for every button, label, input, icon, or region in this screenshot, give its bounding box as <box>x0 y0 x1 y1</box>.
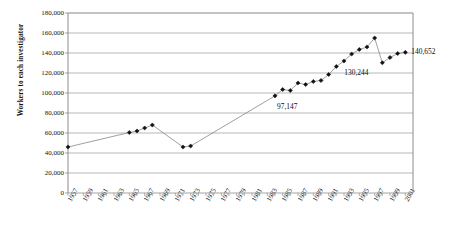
data-point-marker <box>189 144 193 148</box>
data-point-label: 140,652 <box>411 47 435 56</box>
plot-area <box>0 0 464 233</box>
data-point-marker <box>66 145 70 149</box>
data-point-label: 97,147 <box>277 102 297 111</box>
data-point-marker <box>143 126 147 130</box>
data-point-marker <box>311 79 315 83</box>
line-chart: Workers to each investigator 020,00040,0… <box>0 0 464 233</box>
data-point-marker <box>403 50 407 54</box>
series-line <box>68 38 405 147</box>
data-point-marker <box>135 129 139 133</box>
data-point-marker <box>357 47 361 51</box>
data-point-marker <box>304 82 308 86</box>
data-point-label: 130,244 <box>344 68 368 77</box>
data-point-marker <box>127 130 131 134</box>
data-point-marker <box>396 51 400 55</box>
